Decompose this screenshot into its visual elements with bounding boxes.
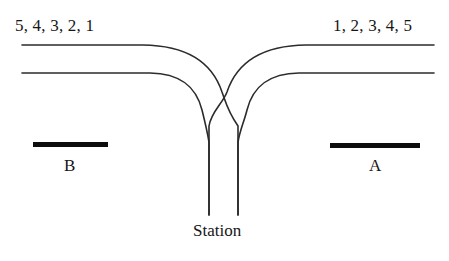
station-label: Station (193, 222, 241, 239)
upper-left-track-line (22, 45, 238, 215)
upper-right-track-line (209, 45, 434, 215)
left-carriage-order-label: 5, 4, 3, 2, 1 (15, 17, 94, 34)
platform-a-label: A (369, 157, 381, 174)
platform-bar-a (330, 143, 420, 148)
right-carriage-order-label: 1, 2, 3, 4, 5 (333, 17, 412, 34)
platform-b-label: B (64, 157, 75, 174)
station-track-diagram: 5, 4, 3, 2, 1 1, 2, 3, 4, 5 B A Station (0, 0, 449, 261)
platform-bar-b (33, 142, 108, 147)
